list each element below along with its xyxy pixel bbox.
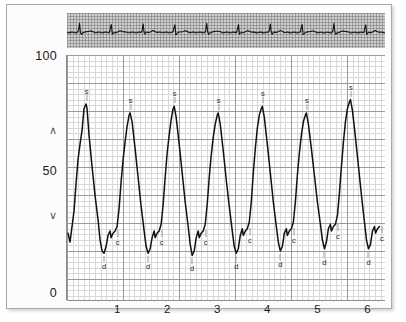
viewer-inner: 100 ∧ 50 ∨ 0 sssssssdddddddccccccc 12345…: [7, 5, 391, 308]
annotation-s: s: [261, 89, 265, 98]
annotation-d: d: [190, 264, 194, 273]
x-tick-5: 5: [314, 303, 320, 315]
annotation-d: d: [366, 258, 370, 267]
annotation-leader: [205, 230, 206, 237]
annotation-c: c: [292, 236, 296, 245]
annotation-leader: [117, 230, 118, 237]
y-tick-50: 50: [11, 164, 57, 178]
annotation-d: d: [102, 262, 106, 271]
y-tick-100: 100: [11, 49, 57, 63]
annotation-s: s: [85, 87, 89, 96]
y-chevron-down-icon[interactable]: ∨: [11, 209, 57, 222]
annotation-leader: [293, 228, 294, 235]
annotation-d: d: [278, 260, 282, 269]
annotation-c: c: [116, 238, 120, 247]
x-tick-4: 4: [264, 303, 270, 315]
x-tick-3: 3: [214, 303, 220, 315]
pressure-trace: [67, 55, 385, 300]
ecg-trace: [67, 13, 385, 48]
ecg-strip: [67, 13, 385, 48]
x-axis-line: [67, 300, 385, 301]
annotation-d: d: [234, 262, 238, 271]
annotation-s: s: [217, 96, 221, 105]
annotation-c: c: [160, 238, 164, 247]
annotation-d: d: [146, 262, 150, 271]
annotation-c: c: [336, 232, 340, 241]
pressure-waveform-plot[interactable]: sssssssdddddddccccccc: [67, 55, 385, 300]
y-tick-0: 0: [11, 286, 57, 300]
annotation-c: c: [380, 234, 384, 243]
annotation-s: s: [349, 83, 353, 92]
annotation-leader: [381, 226, 382, 233]
waveform-viewer-panel: 100 ∧ 50 ∨ 0 sssssssdddddddccccccc 12345…: [6, 4, 392, 309]
annotation-leader: [337, 224, 338, 231]
annotation-leader: [249, 228, 250, 235]
y-chevron-up-icon[interactable]: ∧: [11, 124, 57, 137]
annotation-c: c: [248, 236, 252, 245]
annotation-d: d: [322, 258, 326, 267]
annotation-leader: [161, 230, 162, 237]
annotation-s: s: [305, 96, 309, 105]
annotation-s: s: [173, 89, 177, 98]
annotation-c: c: [204, 238, 208, 247]
x-tick-6: 6: [364, 303, 370, 315]
x-tick-2: 2: [164, 303, 170, 315]
x-tick-1: 1: [114, 303, 120, 315]
annotation-s: s: [129, 96, 133, 105]
